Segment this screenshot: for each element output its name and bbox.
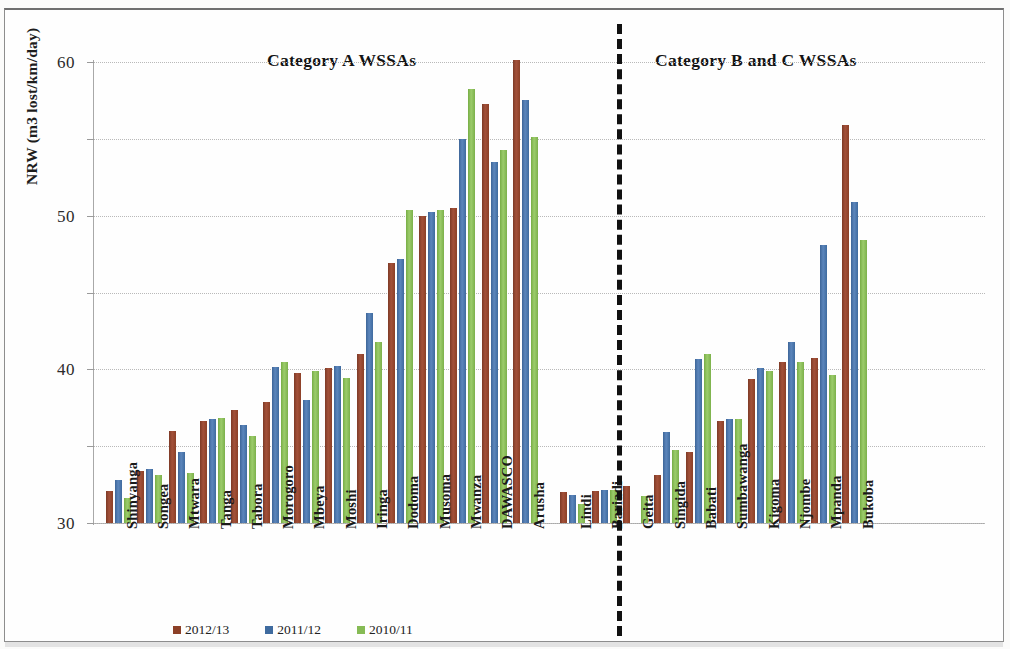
chart-legend: 2012/132011/122010/11 (173, 622, 413, 638)
bar-group (622, 62, 649, 523)
plot-area: 0102030405060 (93, 62, 985, 523)
chart-frame: NRW (m3 lost/km/day) Category A WSSAs Ca… (4, 8, 1004, 642)
bar-group (449, 62, 476, 523)
bar-group (841, 62, 868, 523)
legend-swatch (357, 626, 365, 634)
x-axis-tick-label: Musoma (437, 474, 454, 529)
x-axis-tick-label: Tanga (218, 490, 235, 529)
bar (757, 368, 764, 523)
bar (726, 419, 733, 523)
bar-group (230, 62, 257, 523)
legend-swatch (173, 626, 181, 634)
bar (240, 425, 247, 523)
bar-group (481, 62, 508, 523)
bar-group (262, 62, 289, 523)
bar (601, 490, 608, 523)
x-axis-tick-label: Mpanda (828, 475, 845, 529)
bar-group (199, 62, 226, 523)
x-axis-tick-label: Bukoba (860, 479, 877, 529)
x-axis-tick-label: Mbeya (311, 485, 328, 529)
legend-item: 2011/12 (265, 622, 321, 638)
y-axis-tick: 40 (87, 216, 94, 217)
x-axis-tick-label: Njombe (797, 479, 814, 529)
bar-group (512, 62, 539, 523)
bar-group (418, 62, 445, 523)
bar-group (559, 62, 586, 523)
x-axis-tick-label: Iringa (374, 489, 391, 529)
bar (468, 89, 475, 523)
bar-group (355, 62, 382, 523)
bar (428, 212, 435, 523)
bar (531, 137, 538, 523)
bar (459, 139, 466, 523)
legend-label: 2010/11 (369, 622, 413, 638)
bar (106, 491, 113, 523)
bar (209, 419, 216, 523)
bar-group (747, 62, 774, 523)
bar-group (324, 62, 351, 523)
bar-group (387, 62, 414, 523)
bar (272, 367, 279, 523)
y-axis-tick-label: 50 (57, 207, 75, 227)
y-axis-tick: 20 (87, 369, 94, 370)
legend-item: 2010/11 (357, 622, 413, 638)
bar (695, 359, 702, 523)
bar (115, 480, 122, 523)
x-axis-tick-label: Lindi (578, 494, 595, 529)
x-axis-tick-label: Morogoro (280, 465, 297, 529)
bar-group (684, 62, 711, 523)
y-axis-tick: 60 (87, 62, 94, 63)
x-axis-tick-label: Singida (672, 481, 689, 529)
bar-group (778, 62, 805, 523)
bar-group (653, 62, 680, 523)
legend-item: 2012/13 (173, 622, 229, 638)
bar (569, 495, 576, 523)
legend-swatch (265, 626, 273, 634)
x-axis-tick-label: Babati (703, 487, 720, 529)
y-axis-tick-label: 60 (57, 53, 75, 73)
x-axis-tick-label: Tabora (249, 483, 266, 529)
bar-group (105, 62, 132, 523)
bar (397, 259, 404, 523)
bar (522, 100, 529, 523)
bar (820, 245, 827, 523)
bar (178, 452, 185, 523)
category-divider (617, 24, 622, 636)
bar-group (591, 62, 618, 523)
bar (366, 313, 373, 523)
bar (146, 469, 153, 523)
bar (560, 492, 567, 523)
bar (334, 366, 341, 524)
x-axis-tick-label: Moshi (343, 489, 360, 529)
y-axis-tick: 50 (87, 139, 94, 140)
x-axis-tick-label: Songea (155, 483, 172, 529)
bar (513, 60, 520, 523)
x-axis-tick-label: DAWASCO (499, 455, 516, 529)
bar-group (810, 62, 837, 523)
bar (491, 162, 498, 523)
y-axis-tick: 10 (87, 446, 94, 447)
chart-page: NRW (m3 lost/km/day) Category A WSSAs Ca… (0, 0, 1010, 649)
bar (482, 104, 489, 523)
x-axis-tick-label: Arusha (531, 482, 548, 529)
y-axis-tick-label: 40 (57, 360, 75, 380)
x-axis-tick-label: Geita (640, 494, 657, 529)
x-axis-tick-label: Sumbawanga (734, 443, 751, 529)
y-axis-tick-label: 30 (57, 514, 75, 534)
bar-group (168, 62, 195, 523)
y-axis-label: NRW (m3 lost/km/day) (23, 28, 41, 185)
bar (788, 342, 795, 523)
bar (388, 263, 395, 523)
y-axis-tick: 30 (87, 293, 94, 294)
bar (842, 125, 849, 523)
y-axis-tick: 0 (87, 523, 94, 524)
x-axis-tick-label: Dodoma (405, 475, 422, 529)
legend-label: 2011/12 (277, 622, 321, 638)
bar-group (293, 62, 320, 523)
x-axis-tick-label: Kigoma (766, 479, 783, 529)
legend-label: 2012/13 (185, 622, 229, 638)
bar (303, 400, 310, 523)
x-axis-tick-label: Mtwara (186, 478, 203, 529)
bar (663, 432, 670, 523)
bar (851, 202, 858, 523)
